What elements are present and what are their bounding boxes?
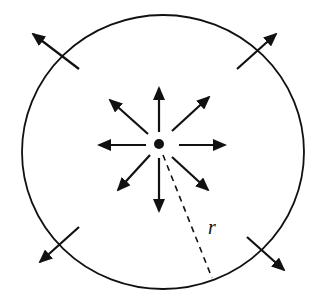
inner-field-arrow-icon	[110, 100, 148, 134]
inner-field-arrow-icon	[118, 155, 150, 190]
outer-field-arrow-icon	[247, 237, 284, 270]
radius-label: r	[208, 216, 216, 238]
inner-field-arrow-icon	[172, 97, 209, 131]
radius-dashed-line	[163, 155, 212, 278]
inner-arrows-group	[99, 88, 225, 211]
outer-arrows-group	[33, 34, 284, 270]
radial-field-diagram: r	[0, 0, 321, 304]
point-source-dot	[154, 139, 164, 149]
inner-field-arrow-icon	[172, 157, 208, 190]
gaussian-surface-circle	[22, 15, 304, 289]
